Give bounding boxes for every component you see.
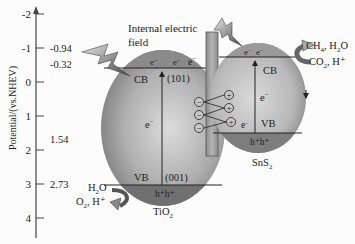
svg-text:+: + [226,90,231,100]
svg-text:+: + [226,103,231,113]
tick-label: 3 [26,178,32,190]
svg-text:−: − [196,110,201,120]
tio2-vb-label: VB [134,172,149,183]
heterojunction-diagram: -2 -1 0 1 2 3 4 Potential/(vs.NHEV) -0.9… [0,0,355,244]
value-tio2-vb: 2.73 [50,179,68,190]
tio2-facet-001: (001) [165,172,188,184]
value-sns2-cb: -0.32 [50,59,72,70]
sns2-holes: h⁺h⁺ [250,137,270,147]
tick-label: 2 [26,144,32,156]
axis-arrow-icon [33,6,39,14]
tio2-cb-label: CB [134,74,148,85]
axis-label: Potential/(vs.NHEV) [7,66,19,150]
sns2-products: CH4, H2O [306,40,348,54]
sns2-vb-label: VB [261,118,276,129]
tio2-reactant: H2O [88,182,107,196]
value-sns2-vb: 1.54 [50,134,69,145]
sns2-reactants: CO2, H⁺ [309,56,345,70]
tio2-name: TiO2 [153,206,174,220]
svg-text:+: + [228,117,233,127]
tick-label: -2 [22,8,31,20]
tick-label: 0 [26,76,32,88]
svg-text:−: − [196,123,201,133]
value-tio2-cb: -0.94 [50,43,73,54]
field-title-line2: field [128,36,149,48]
svg-text:−: − [196,97,201,107]
sns2-cb-label: CB [263,65,277,76]
tio2-products: O2, H⁺ [76,196,105,210]
tick-label: -1 [22,42,31,54]
light-bolt-icon [82,44,130,76]
tick-label: 1 [26,110,32,122]
tio2-holes: h⁺h⁺ [155,189,175,199]
tick-label: 4 [26,212,32,224]
sns2-name: SnS2 [252,157,273,171]
y-axis: -2 -1 0 1 2 3 4 Potential/(vs.NHEV) -0.9… [7,6,73,238]
tio2-facet-101: (101) [167,73,190,85]
tio2-oxidation-arrow [110,190,127,210]
field-title-line1: Internal electric [128,22,197,34]
